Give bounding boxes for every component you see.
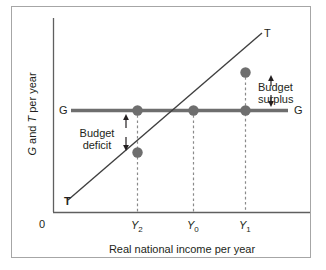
y-axis-label-g: G [26, 147, 38, 156]
budget-surplus-line2: surplus [258, 93, 320, 105]
x-tick-y1-sub: 1 [246, 225, 250, 234]
x-tick-y0-sub: 0 [194, 225, 198, 234]
x-tick-y0: Y0 [187, 219, 199, 234]
g-line-label-right: G [294, 105, 303, 116]
x-axis-label: Real national income per year [53, 243, 311, 255]
marker-g-at-y1 [240, 105, 250, 115]
figure-container: G and T per year Real national income pe… [0, 0, 326, 270]
budget-surplus-line1: Budget [258, 81, 320, 93]
g-line-label-left: G [59, 105, 68, 116]
y-axis-label-t: T [26, 116, 38, 123]
x-tick-y2: Y2 [131, 219, 143, 234]
origin-label: 0 [39, 219, 45, 230]
y-axis-label-and: and [26, 123, 38, 147]
chart-canvas [0, 0, 326, 270]
marker-equilibrium-y0 [188, 105, 198, 115]
x-tick-y1: Y1 [239, 219, 251, 234]
y-axis-label-peryear: per year [26, 72, 38, 115]
budget-deficit-annotation: Budget deficit [66, 127, 128, 151]
marker-g-at-y2 [132, 105, 142, 115]
y-axis-label: G and T per year [26, 54, 38, 174]
t-line [68, 33, 262, 200]
t-line-label-start: T [64, 196, 71, 207]
marker-t-at-y2 [132, 147, 142, 157]
budget-deficit-line1: Budget [66, 127, 128, 139]
x-tick-y2-sub: 2 [138, 225, 142, 234]
budget-surplus-annotation: Budget surplus [258, 81, 320, 105]
t-line-label-end: T [264, 28, 271, 39]
marker-t-at-y1 [240, 67, 250, 77]
budget-deficit-line2: deficit [66, 139, 128, 151]
